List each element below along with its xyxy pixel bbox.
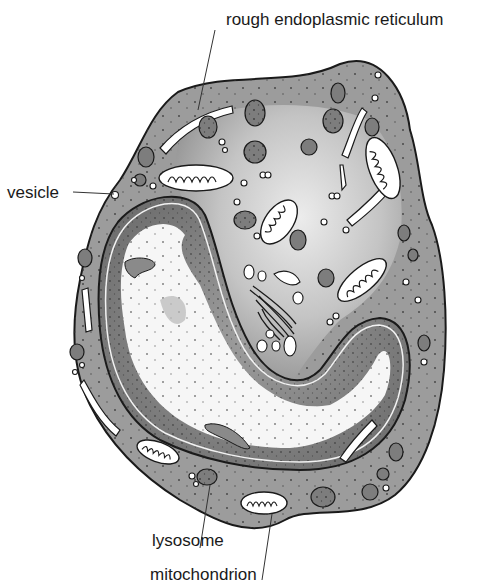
vesicle-leader	[73, 192, 114, 194]
label-rough-endoplasmic-reticulum: rough endoplasmic reticulum	[226, 11, 443, 28]
label-mitochondrion: mitochondrion	[150, 566, 257, 583]
label-lysosome: lysosome	[152, 532, 224, 549]
label-vesicle: vesicle	[7, 184, 59, 201]
cell-diagram	[0, 0, 490, 586]
